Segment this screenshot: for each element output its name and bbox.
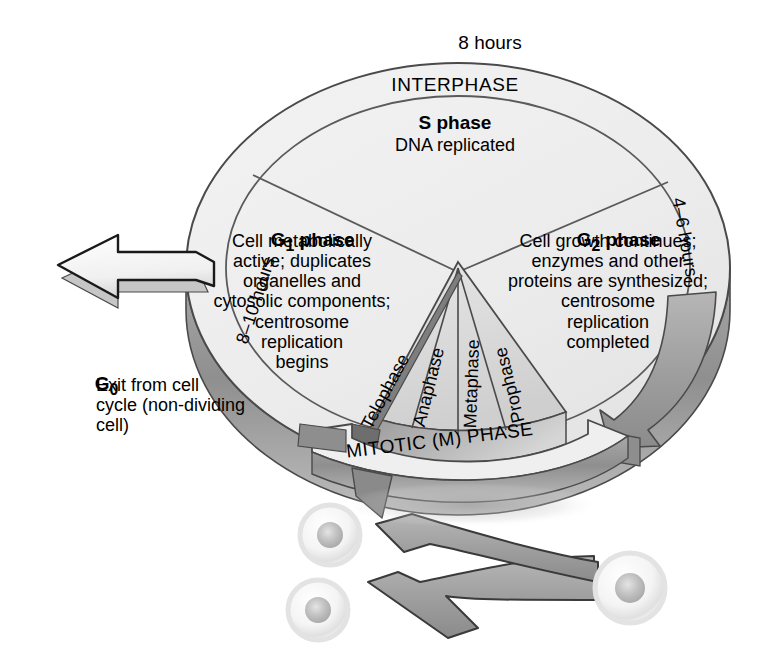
g0-phase-description: Exit from cell cycle (non-dividing cell) <box>96 375 245 435</box>
mitotic-stage-metaphase: Metaphase <box>460 339 484 429</box>
s-phase-description: DNA replicated <box>395 135 515 155</box>
parent-cell <box>595 553 665 623</box>
cell-division-arrow <box>368 514 598 638</box>
duration-s-phase: 8 hours <box>458 32 521 53</box>
s-phase-title: S phase <box>419 112 492 133</box>
g1-phase-description: Cell metabolically active; duplicates or… <box>213 231 390 372</box>
disk-shadow <box>340 483 600 527</box>
cell-cycle-diagram: 8 hours INTERPHASE S phase DNA replicate… <box>0 0 780 669</box>
interphase-label: INTERPHASE <box>391 74 518 95</box>
daughter-cell-1 <box>300 505 360 565</box>
daughter-cell-2 <box>288 580 348 640</box>
